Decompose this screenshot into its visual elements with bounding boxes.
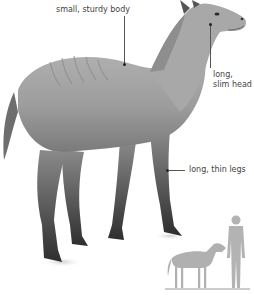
marker-dot-body <box>123 63 126 66</box>
leader-line-legs <box>168 170 185 171</box>
horse-illustration <box>0 0 254 295</box>
diagram-stage: small, sturdy body long, slim head long,… <box>0 0 254 295</box>
marker-dot-head <box>209 23 212 26</box>
leader-line-head <box>210 24 211 68</box>
label-legs: long, thin legs <box>189 165 246 175</box>
label-body: small, sturdy body <box>56 5 130 15</box>
scale-human-silhouette <box>227 216 245 289</box>
label-head-line1: long, <box>213 70 233 80</box>
scale-horse-silhouette <box>168 243 226 288</box>
label-head-line2: slim head <box>213 80 252 90</box>
leader-line-body <box>124 16 125 64</box>
